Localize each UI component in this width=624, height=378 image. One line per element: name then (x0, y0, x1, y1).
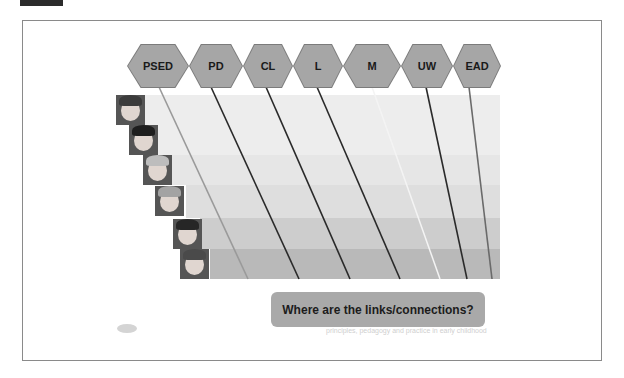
hexagon-label: PSED (128, 45, 188, 87)
callout-text: Where are the links/connections? (282, 303, 473, 317)
line-ead (469, 87, 492, 279)
hexagon-label: UW (402, 45, 452, 87)
line-uw (426, 87, 467, 279)
hexagon-label: L (294, 45, 342, 87)
hexagon-label: EAD (454, 45, 500, 87)
line-cl (266, 87, 350, 279)
hexagon-label: CL (244, 45, 292, 87)
line-psed (159, 87, 248, 279)
hexagon-label: PD (190, 45, 242, 87)
hexagon-label: M (344, 45, 400, 87)
footer-caption: principles, pedagogy and practice in ear… (326, 327, 487, 334)
leaf-logo-icon (117, 324, 137, 333)
question-callout: Where are the links/connections? (271, 292, 485, 327)
line-m (372, 87, 440, 279)
line-pd (211, 87, 299, 279)
line-l (317, 87, 400, 279)
